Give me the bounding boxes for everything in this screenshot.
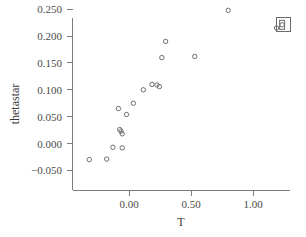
scatter-plot-figure: −0.0500.0000.0500.1000.1500.2000.250 0.0… bbox=[0, 0, 306, 237]
data-point bbox=[150, 82, 154, 86]
data-point bbox=[131, 101, 135, 105]
x-tick-label: 0.50 bbox=[181, 198, 201, 210]
data-point bbox=[193, 54, 197, 58]
y-tick-label: 0.100 bbox=[37, 84, 62, 96]
y-tick-label: 0.050 bbox=[37, 111, 62, 123]
y-axis-title: thetastar bbox=[8, 84, 22, 125]
data-point bbox=[226, 8, 230, 12]
data-point bbox=[104, 157, 108, 161]
data-points-layer bbox=[87, 8, 284, 162]
data-point bbox=[141, 88, 145, 92]
x-axis-title: T bbox=[177, 215, 185, 229]
plot-canvas: −0.0500.0000.0500.1000.1500.2000.250 0.0… bbox=[0, 0, 306, 237]
x-axis-tick-labels: 0.000.501.00 bbox=[119, 198, 263, 210]
y-tick-label: 0.250 bbox=[37, 3, 62, 15]
data-point bbox=[116, 106, 120, 110]
data-point bbox=[120, 146, 124, 150]
data-point bbox=[87, 157, 91, 161]
data-point bbox=[160, 55, 164, 59]
x-axis-ticks bbox=[129, 191, 253, 196]
y-tick-label: −0.050 bbox=[31, 164, 62, 176]
data-point bbox=[111, 145, 115, 149]
data-point bbox=[163, 39, 167, 43]
y-axis-ticks bbox=[67, 9, 73, 170]
y-tick-label: 0.150 bbox=[37, 57, 62, 69]
x-tick-label: 1.00 bbox=[243, 198, 263, 210]
y-tick-label: 0.200 bbox=[37, 30, 62, 42]
y-tick-label: 0.000 bbox=[37, 138, 62, 150]
data-point bbox=[124, 112, 128, 116]
data-point bbox=[280, 23, 284, 27]
y-axis-tick-labels: −0.0500.0000.0500.1000.1500.2000.250 bbox=[31, 3, 62, 176]
x-tick-label: 0.00 bbox=[119, 198, 139, 210]
